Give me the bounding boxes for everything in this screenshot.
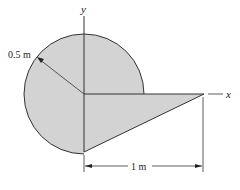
radius-label: 0.5 m [8, 49, 31, 60]
dimension-arrowhead-right-icon [195, 164, 202, 168]
x-axis-label: x [225, 88, 231, 100]
length-dimension-label: 1 m [131, 161, 147, 172]
composite-area-figure: y x 0.5 m 1 m [0, 0, 240, 190]
y-axis-label: y [80, 3, 86, 15]
diagram-canvas: y x 0.5 m 1 m [0, 0, 240, 190]
dimension-arrowhead-left-icon [85, 164, 92, 168]
